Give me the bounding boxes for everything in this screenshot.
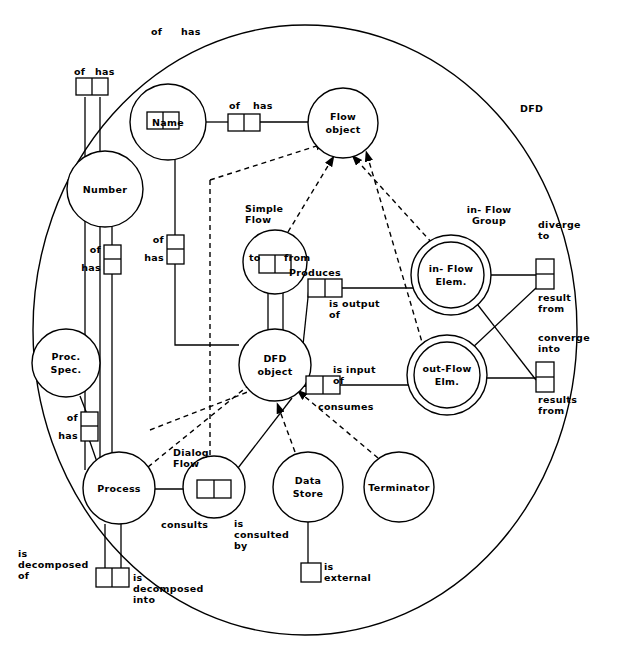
- dfd-boundary-label: DFD: [520, 103, 543, 114]
- role-label-of-number-top: of: [74, 66, 85, 77]
- relbox-proc-spec-has: [81, 412, 98, 441]
- role-label-diverge-to: diverge to: [538, 219, 581, 241]
- entity-label-in-flow-elem: in- Flow Elem.: [429, 262, 474, 288]
- role-label-produces: Produces: [289, 267, 341, 278]
- role-label-has-proc-spec: has: [58, 430, 78, 441]
- relbox-is-external: [301, 563, 321, 582]
- role-label-of-name-flow: of: [229, 100, 240, 111]
- relbox-produces: [308, 279, 342, 297]
- entity-label-simple-flow: Simple Flow: [245, 203, 283, 225]
- role-label-is-decomposed-of: is decomposed of: [18, 548, 89, 581]
- role-label-from: from: [284, 252, 310, 263]
- relbox-number-has: [104, 245, 121, 274]
- relbox-number-top: [76, 78, 108, 95]
- entity-label-process: Process: [97, 482, 141, 495]
- relbox-consults: [197, 480, 231, 498]
- relbox-diverge: [536, 259, 554, 289]
- role-label-to: to: [249, 252, 261, 263]
- diagram-canvas: DFD Name Number Flow object in- Flow Ele…: [0, 0, 619, 658]
- entity-label-out-flow-elm: out-Flow Elm.: [422, 362, 471, 388]
- role-label-is-decomposed-into: is decomposed into: [133, 572, 204, 605]
- entity-circles: [32, 84, 491, 524]
- role-label-consults: consults: [161, 519, 208, 530]
- role-label-consumes: consumes: [318, 401, 374, 412]
- relbox-name-has: [167, 235, 184, 264]
- subtype-dashed-lines: [148, 143, 432, 481]
- entity-label-terminator: Terminator: [368, 481, 429, 494]
- role-label-of-proc-spec: of: [67, 412, 78, 423]
- role-label-of-name-top: of: [151, 26, 162, 37]
- entity-label-proc-spec: Proc. Spec.: [51, 350, 82, 376]
- role-label-of-name-has: of: [153, 234, 164, 245]
- erd-diagram-svg: [0, 0, 619, 658]
- entity-label-in-flow-group: in- Flow Group: [467, 204, 512, 226]
- relbox-decomposed: [96, 568, 129, 587]
- relbox-name-flowobject: [228, 114, 260, 131]
- role-label-of-number-has: of: [90, 244, 101, 255]
- entity-label-flow-object: Flow object: [326, 110, 361, 136]
- role-label-has-number-has: has: [81, 262, 101, 273]
- role-label-results-from: results from: [538, 394, 577, 416]
- role-label-converge-into: converge into: [538, 332, 590, 354]
- entity-label-name: Name: [152, 116, 184, 129]
- entity-label-dialog-flow: Dialog Flow: [173, 447, 209, 469]
- entity-label-data-store: Data Store: [293, 474, 324, 500]
- role-label-has-name-has: has: [144, 252, 164, 263]
- role-label-is-consulted-by: is consulted by: [234, 518, 289, 551]
- role-label-is-input-of: is input of: [333, 364, 376, 386]
- role-label-result-from: result from: [538, 292, 571, 314]
- entity-label-dfd-object: DFD object: [258, 352, 293, 378]
- role-label-is-external: is external: [324, 561, 371, 583]
- entity-label-number: Number: [83, 183, 127, 196]
- role-label-has-name-flow: has: [253, 100, 273, 111]
- role-label-has-name-top: has: [181, 26, 201, 37]
- role-label-is-output-of: is output of: [329, 298, 380, 320]
- relbox-converge: [536, 362, 554, 392]
- role-label-has-number-top: has: [95, 66, 115, 77]
